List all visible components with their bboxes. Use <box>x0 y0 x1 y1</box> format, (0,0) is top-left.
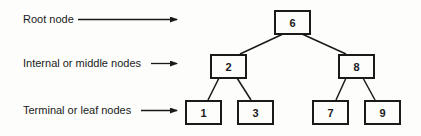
internal-nodes-label: Internal or middle nodes <box>23 57 141 70</box>
binary-tree-diagram: Root node Internal or middle nodes Termi… <box>0 0 421 136</box>
edge-8-7 <box>336 78 346 100</box>
tree-node-leaf: 7 <box>312 100 349 125</box>
tree-node-internal: 2 <box>210 54 247 79</box>
leaf-nodes-label: Terminal or leaf nodes <box>23 104 131 117</box>
edge-6-2 <box>240 34 283 54</box>
tree-node-leaf: 9 <box>364 100 401 125</box>
edge-2-3 <box>237 78 251 100</box>
edge-8-9 <box>363 78 375 100</box>
tree-node-internal: 8 <box>338 54 375 79</box>
tree-node-leaf: 3 <box>237 100 274 125</box>
tree-node-root: 6 <box>274 10 311 35</box>
tree-node-leaf: 1 <box>185 100 222 125</box>
edge-6-8 <box>302 34 346 54</box>
root-node-label: Root node <box>23 13 74 26</box>
edge-2-1 <box>208 78 219 100</box>
